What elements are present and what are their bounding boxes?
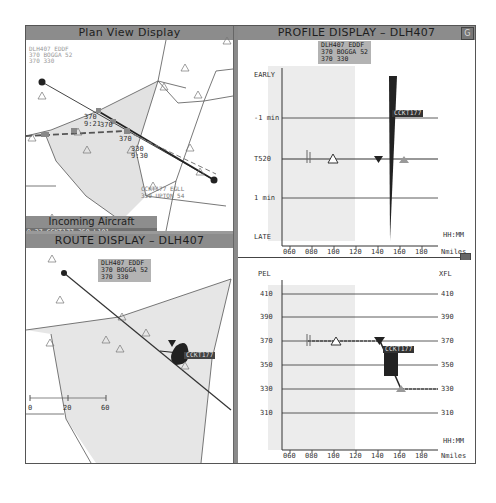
scale-label: 0: [28, 405, 32, 412]
xfl-level: 410: [441, 290, 454, 298]
route-flight-label[interactable]: DLH407 EDDF370 BOGGA 52370 330: [98, 259, 151, 282]
xfl-level: 390: [441, 313, 454, 321]
pel-title: PEL: [258, 270, 271, 278]
xfl-level: 370: [441, 337, 454, 345]
scale-label: 20: [63, 405, 71, 412]
x-tick: 080: [305, 452, 318, 460]
x-unit-distance: Nmiles: [441, 452, 466, 460]
x-tick: 120: [349, 452, 362, 460]
xfl-title: XFL: [439, 270, 452, 278]
x-tick: 060: [283, 452, 296, 460]
incoming-aircraft-list: Incoming Aircraft 9:27 CCKT177 350 L101 …: [26, 216, 157, 231]
track-label-level: 370: [119, 136, 132, 143]
vertical-conflict-tag[interactable]: CCKT177: [383, 346, 414, 353]
x-tick: 180: [415, 452, 428, 460]
x-tick: 140: [371, 452, 384, 460]
pel-level: 370: [260, 337, 273, 345]
pel-level: 310: [260, 409, 273, 417]
profile-flight-label[interactable]: DLH407 EDDF370 BOGGA 52370 330: [318, 41, 371, 64]
vertical-chart[interactable]: [238, 260, 475, 463]
scale-label: 60: [101, 405, 109, 412]
plan-top-label: DLH407 EDDF370 BOGGA 52370 330: [29, 46, 72, 64]
route-display-panel: ROUTE DISPLAY – DLH407 DLH407 EDDF370 BO…: [26, 234, 233, 463]
atc-workstation: Plan View Display: [25, 25, 476, 464]
x-unit-time: HH:MM: [443, 437, 464, 445]
pel-level: 330: [260, 385, 273, 393]
incoming-title: Incoming Aircraft: [26, 216, 157, 228]
y-label-t520: T520: [254, 155, 271, 163]
x-tick: 100: [327, 452, 340, 460]
pel-level: 390: [260, 313, 273, 321]
y-label-late: LATE: [254, 233, 271, 241]
pel-level: 410: [260, 290, 273, 298]
track-label-time: 9:30: [131, 153, 148, 160]
xfl-level: 330: [441, 385, 454, 393]
track-label-level: 370: [100, 122, 113, 129]
route-conflict-tag[interactable]: CCKT177: [184, 352, 215, 359]
y-label-plus1: 1 min: [254, 194, 275, 202]
pel-level: 350: [260, 361, 273, 369]
profile-conflict-tag[interactable]: CCKT177: [392, 110, 423, 117]
x-unit-time: HH:MM: [443, 231, 464, 239]
track-label-time: 9:21: [84, 121, 101, 128]
vertical-display-panel: CCKT177 PEL XFL 410 390 370 350 330 310 …: [238, 260, 475, 463]
x-tick: 160: [393, 452, 406, 460]
incoming-row[interactable]: 9:27 CCKT177 350 L101: [26, 228, 157, 231]
xfl-level: 350: [441, 361, 454, 369]
profile-display-panel: PROFILE DISPLAY – DLH407G DLH407 EDDF370…: [238, 26, 475, 254]
plan-bottom-label: CCKT177 EGLL350 UPTON 54: [141, 185, 184, 199]
y-label-minus1: -1 min: [254, 114, 279, 122]
xfl-level: 310: [441, 409, 454, 417]
plan-view-panel: Plan View Display: [26, 26, 233, 231]
y-label-early: EARLY: [254, 71, 275, 79]
